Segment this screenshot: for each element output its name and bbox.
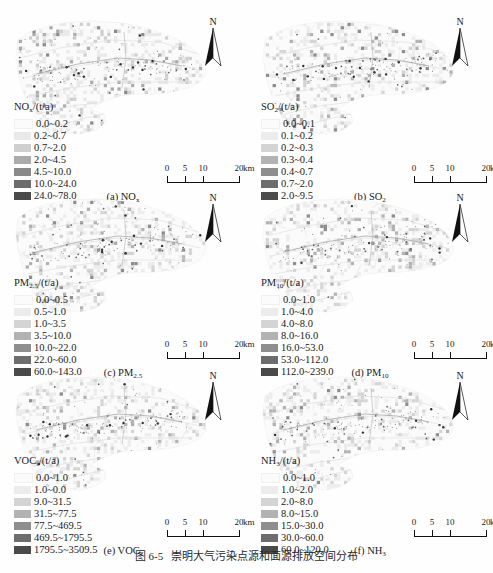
map-panel-nox: N051020kmNOx/(t/a)0.0~0.20.2~0.70.7~2.02… — [0, 2, 246, 180]
scale-bar-c: 051020km — [164, 338, 260, 359]
legend-title-main: NO — [14, 101, 29, 112]
north-label: N — [447, 192, 473, 203]
legend-row: 4.0~8.0 — [261, 318, 334, 330]
legend-swatch — [14, 295, 33, 305]
scale-label-10: 10 — [446, 162, 455, 174]
scale-bar-labels: 051020km — [411, 516, 493, 528]
legend-row: 0.0~1.0 — [261, 472, 329, 484]
scale-label-5: 5 — [183, 516, 188, 528]
legend-swatch — [14, 473, 33, 483]
legend-range-label: 8.0~15.0 — [281, 508, 318, 520]
scale-label-10: 10 — [446, 338, 455, 350]
legend-swatch — [261, 156, 278, 164]
scale-bar-d: 051020km — [411, 338, 493, 359]
map-panel-pm10: N051020kmPM10/(t/a)0.0~1.01.0~4.04.0~8.0… — [247, 180, 493, 358]
scale-label-0: 0 — [165, 516, 170, 528]
legend-row: 1.0~3.5 — [14, 318, 82, 330]
north-label: N — [200, 370, 226, 381]
scale-bar-labels: 051020km — [411, 162, 493, 174]
legend-range-label: 0.5~1.0 — [34, 306, 66, 318]
legend-range-label: 30.0~60.0 — [281, 532, 323, 544]
legend-row: 3.5~10.0 — [14, 330, 82, 342]
legend-range-label: 0.7~2.0 — [34, 142, 66, 154]
legend-row: 77.5~469.5 — [14, 520, 97, 532]
legend-range-label: 4.5~10.0 — [34, 166, 71, 178]
north-label: N — [200, 16, 226, 27]
legend-range-label: 469.5~1795.5 — [34, 532, 92, 544]
scale-label-10: 10 — [199, 516, 208, 528]
legend-range-label: 1.0~0.0 — [34, 484, 66, 496]
legend-range-label: 31.5~77.5 — [34, 508, 76, 520]
legend-title-tail: /(t/a) — [283, 277, 303, 288]
scale-label-5: 5 — [430, 338, 435, 350]
figure-caption: 图 6-5崇明大气污染点源和面源排放空间分布 — [0, 548, 493, 564]
legend-range-label: 2.0~8.0 — [281, 496, 313, 508]
legend-row: 0.4~0.7 — [261, 166, 315, 178]
legend-row: 0.0~0.1 — [261, 118, 315, 130]
legend-row: 0.2~0.7 — [14, 130, 76, 142]
map-panel-so2: N051020kmSO2/(t/a)0.0~0.10.1~0.20.2~0.30… — [247, 2, 493, 180]
north-arrow-e: N — [200, 370, 226, 428]
legend-range-label: 0.0~1.0 — [36, 472, 68, 484]
legend-row: 30.0~60.0 — [261, 532, 329, 544]
legend-title-tail: /(t/a) — [38, 277, 58, 288]
legend-range-label: 0.0~0.5 — [36, 294, 68, 306]
legend-title-main: NH — [261, 455, 276, 466]
legend-swatch — [14, 534, 31, 542]
figure-caption-number: 图 6-5 — [135, 550, 163, 562]
legend-swatch — [14, 510, 31, 518]
scale-label-5: 5 — [183, 162, 188, 174]
legend-swatch — [14, 144, 31, 152]
legend-row: 16.0~53.0 — [261, 342, 334, 354]
legend-title-a: NOx/(t/a) — [14, 100, 76, 117]
legend-row: 0.0~1.0 — [261, 294, 334, 306]
scale-bar-f: 051020km — [411, 516, 493, 537]
legend-range-label: 15.0~30.0 — [281, 520, 323, 532]
north-arrow-d: N — [447, 192, 473, 250]
legend-swatch — [14, 320, 31, 328]
legend-swatch — [261, 534, 278, 542]
legend-swatch — [261, 473, 280, 483]
legend-title-e: VOCs/(t/a) — [14, 454, 97, 471]
legend-swatch — [14, 522, 31, 530]
legend-row: 2.0~8.0 — [261, 496, 329, 508]
legend-range-label: 1.0~3.5 — [34, 318, 66, 330]
scale-label-5: 5 — [183, 338, 188, 350]
scale-bar-e: 051020km — [164, 516, 260, 537]
legend-range-label: 0.3~0.4 — [281, 154, 313, 166]
legend-swatch — [14, 498, 31, 506]
legend-range-label: 9.0~31.5 — [34, 496, 71, 508]
legend-title-main: PM — [261, 277, 276, 288]
legend-range-label: 0.0~1.0 — [283, 294, 315, 306]
scale-bar-graphic — [411, 529, 493, 537]
legend-row: 8.0~16.0 — [261, 330, 334, 342]
legend-swatch — [261, 132, 278, 140]
north-label: N — [447, 16, 473, 27]
legend-swatch — [261, 144, 278, 152]
scale-label-0: 0 — [165, 162, 170, 174]
legend-range-label: 0.2~0.3 — [281, 142, 313, 154]
legend-row: 0.1~0.2 — [261, 130, 315, 142]
scale-label-10: 10 — [446, 516, 455, 528]
legend-row: 31.5~77.5 — [14, 508, 97, 520]
legend-swatch — [14, 156, 31, 164]
legend-swatch — [14, 132, 31, 140]
map-panel-vocs: N051020kmVOCs/(t/a)0.0~1.01.0~0.09.0~31.… — [0, 358, 246, 536]
legend-row: 0.3~0.4 — [261, 154, 315, 166]
map-panel-nh3: N051020kmNH3/(t/a)0.0~1.01.0~2.02.0~8.08… — [247, 358, 493, 536]
legend-row: 0.0~1.0 — [14, 472, 97, 484]
legend-title-b: SO2/(t/a) — [261, 100, 315, 117]
legend-swatch — [261, 486, 278, 494]
legend-title-main: VOC — [14, 455, 36, 466]
legend-title-c: PM2.5/(t/a) — [14, 276, 82, 293]
scale-label-0: 0 — [165, 338, 170, 350]
scale-label-10: 10 — [199, 338, 208, 350]
legend-title-main: PM — [14, 277, 29, 288]
legend-range-label: 3.5~10.0 — [34, 330, 71, 342]
legend-row: 0.5~1.0 — [14, 306, 82, 318]
figure-caption-text: 崇明大气污染点源和面源排放空间分布 — [171, 550, 358, 562]
legend-row: 1.0~4.0 — [261, 306, 334, 318]
scale-bar-labels: 051020km — [411, 338, 493, 350]
legend-row: 0.0~0.2 — [14, 118, 76, 130]
legend-title-tail: /(t/a) — [33, 101, 53, 112]
